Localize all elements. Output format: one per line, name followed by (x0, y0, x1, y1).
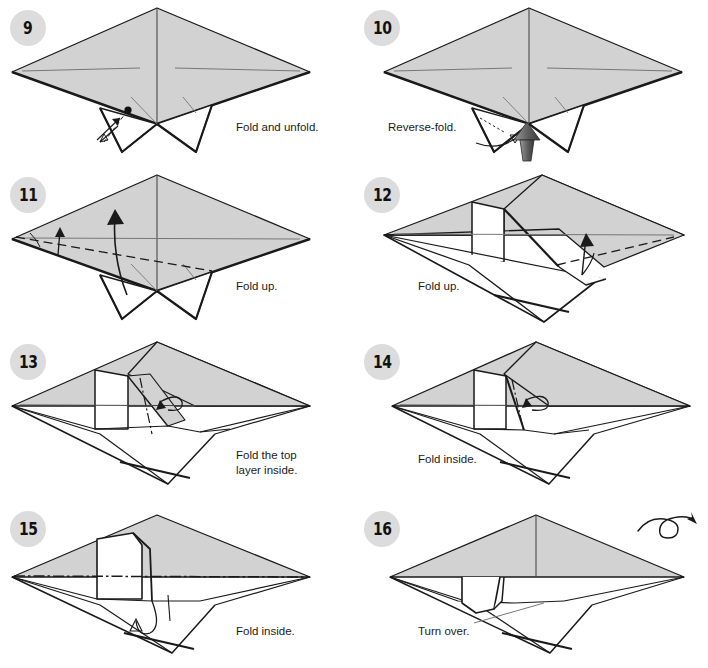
step-caption-10: Reverse-fold. (388, 120, 456, 135)
step-number-label: 12 (373, 187, 392, 204)
step-caption-12: Fold up. (418, 279, 460, 294)
step-panel-15: 15 (0, 501, 354, 668)
step-badge-12: 12 (364, 177, 400, 213)
step-badge-16: 16 (364, 511, 400, 547)
paper-body (384, 175, 684, 322)
step-badge-15: 15 (10, 511, 46, 547)
step-number-label: 11 (19, 187, 38, 204)
step-badge-14: 14 (364, 344, 400, 380)
step-panel-10: 10 (354, 0, 708, 167)
step-caption-11: Fold up. (236, 279, 278, 294)
step-badge-11: 11 (10, 177, 46, 213)
instruction-sheet: 9 (0, 0, 708, 668)
origami-figure-12 (354, 167, 708, 334)
origami-figure-14 (354, 334, 708, 501)
step-panel-12: 12 (354, 167, 708, 334)
step-number-label: 16 (373, 521, 392, 538)
origami-figure-11 (0, 167, 354, 334)
step-number-label: 13 (19, 354, 38, 371)
step-caption-14: Fold inside. (418, 452, 477, 467)
step-caption-9: Fold and unfold. (236, 120, 318, 135)
turn-over-icon (634, 507, 700, 547)
step-panel-14: 14 (354, 334, 708, 501)
step-panel-9: 9 (0, 0, 354, 167)
reference-dot (124, 106, 131, 113)
step-panel-13: 13 (0, 334, 354, 501)
origami-figure-15 (0, 501, 354, 668)
step-badge-13: 13 (10, 344, 46, 380)
step-badge-9: 9 (10, 10, 46, 46)
step-panel-16: 16 (354, 501, 708, 668)
step-number-label: 9 (23, 20, 32, 37)
paper-body (12, 175, 310, 319)
step-caption-16: Turn over. (418, 624, 469, 639)
step-panel-11: 11 (0, 167, 354, 334)
origami-figure-13 (0, 334, 354, 501)
step-number-label: 14 (373, 354, 392, 371)
step-number-label: 10 (373, 20, 392, 37)
step-badge-10: 10 (364, 10, 400, 46)
step-caption-15: Fold inside. (236, 624, 295, 639)
step-number-label: 15 (19, 521, 38, 538)
step-caption-13: Fold the top layer inside. (236, 448, 297, 478)
origami-figure-10 (354, 0, 708, 167)
notch-detail (462, 577, 504, 613)
origami-figure-9 (0, 0, 354, 167)
